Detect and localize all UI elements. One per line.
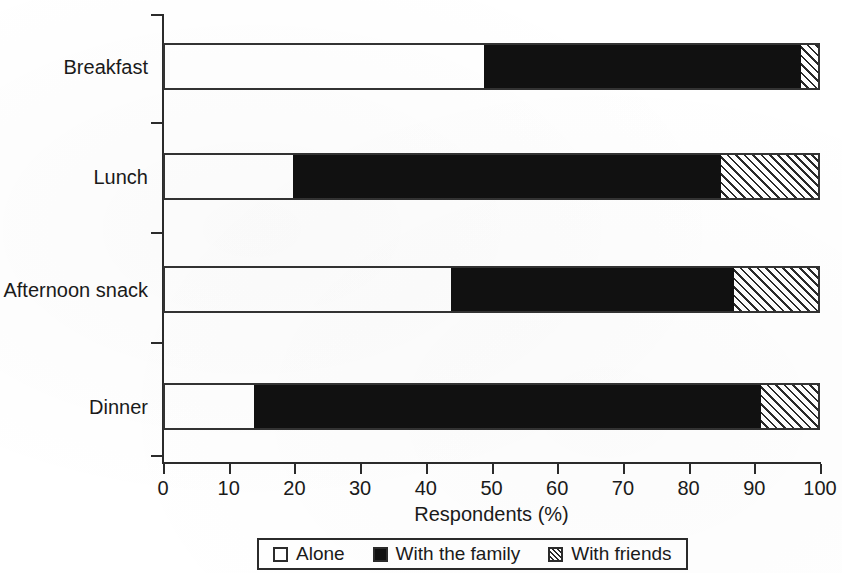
bar-segment-alone xyxy=(163,383,254,430)
x-axis-tick-label: 50 xyxy=(462,476,522,500)
x-axis-tick xyxy=(689,464,691,474)
y-axis-tick xyxy=(151,122,163,124)
legend-item-with-the-family: With the family xyxy=(373,544,521,564)
category-label-text: Lunch xyxy=(94,166,149,188)
y-axis-tick xyxy=(151,14,163,16)
bar-segment-friends xyxy=(761,383,820,430)
chart-legend: AloneWith the familyWith friends xyxy=(257,538,688,570)
category-label-text: Afternoon snack xyxy=(3,279,148,301)
legend-label-text: With friends xyxy=(571,544,671,564)
legend-label-text: Alone xyxy=(296,544,345,564)
x-axis-title: Respondents (%) xyxy=(163,503,820,525)
x-axis-tick-label: 100 xyxy=(790,476,842,500)
bar-afternoon-snack xyxy=(163,266,820,313)
x-axis-tick-label: 10 xyxy=(199,476,259,500)
bar-segment-friends xyxy=(801,43,820,90)
x-axis-tick-label: 20 xyxy=(264,476,324,500)
y-axis-tick xyxy=(151,232,163,234)
x-axis-tick xyxy=(557,464,559,474)
legend-label-text: With the family xyxy=(396,544,521,564)
y-axis-tick xyxy=(151,455,163,457)
x-axis-tick xyxy=(426,464,428,474)
bar-segment-family xyxy=(451,266,734,313)
x-axis-tick-label: 60 xyxy=(527,476,587,500)
open-square-swatch xyxy=(273,547,288,562)
x-axis-tick-label: 90 xyxy=(724,476,784,500)
x-axis-tick xyxy=(492,464,494,474)
legend-item-alone: Alone xyxy=(273,544,345,564)
hatched-square-swatch xyxy=(548,547,563,562)
bar-segment-friends xyxy=(721,153,820,200)
bar-segment-family xyxy=(254,383,761,430)
x-axis-tick-label: 30 xyxy=(330,476,390,500)
stacked-bar-chart-figure: BreakfastLunchAfternoon snackDinner 0102… xyxy=(0,0,842,573)
x-axis-tick-label: 40 xyxy=(396,476,456,500)
bar-breakfast xyxy=(163,43,820,90)
x-axis-tick xyxy=(360,464,362,474)
x-axis-tick-label: 80 xyxy=(659,476,719,500)
x-axis-tick xyxy=(163,464,165,474)
x-axis-tick-label: 70 xyxy=(593,476,653,500)
category-label-text: Dinner xyxy=(89,396,148,418)
bar-segment-family xyxy=(293,153,721,200)
bar-segment-friends xyxy=(734,266,820,313)
x-axis-tick xyxy=(820,464,822,474)
bar-segment-alone xyxy=(163,266,451,313)
bar-dinner xyxy=(163,383,820,430)
x-axis-tick xyxy=(294,464,296,474)
bar-segment-family xyxy=(484,43,801,90)
filled-square-swatch xyxy=(373,547,388,562)
x-axis-tick xyxy=(229,464,231,474)
bar-segment-alone xyxy=(163,43,484,90)
x-axis-tick xyxy=(754,464,756,474)
bar-segment-alone xyxy=(163,153,293,200)
legend-item-with-friends: With friends xyxy=(548,544,671,564)
category-label-text: Breakfast xyxy=(64,56,148,78)
bar-lunch xyxy=(163,153,820,200)
y-axis-tick xyxy=(151,342,163,344)
x-axis-tick xyxy=(623,464,625,474)
x-axis-tick-label: 0 xyxy=(133,476,193,500)
